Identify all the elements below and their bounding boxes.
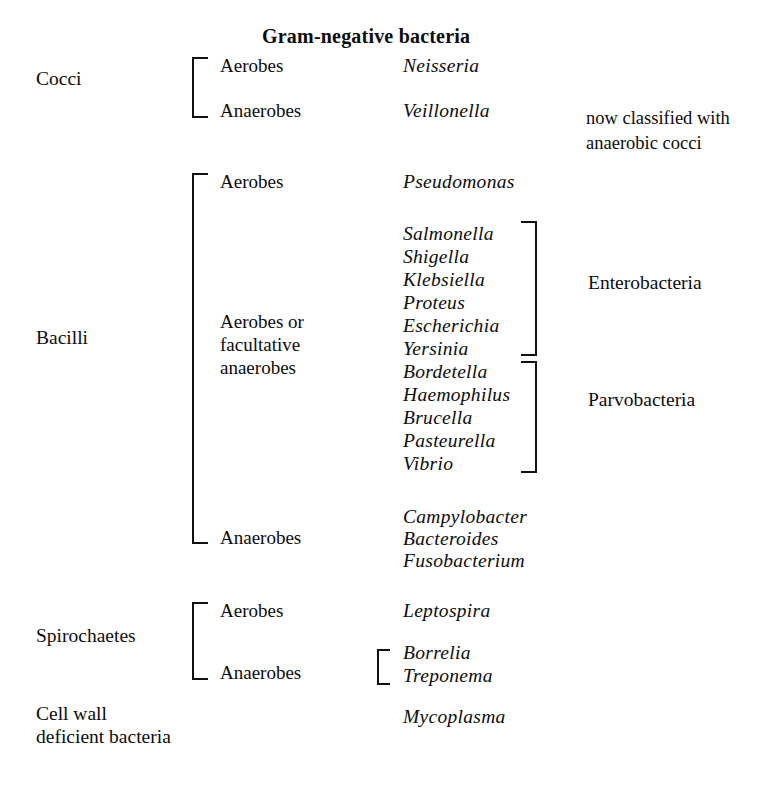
- bracket-cocci: [192, 57, 208, 118]
- genus-bacteroides: Bacteroides: [403, 528, 499, 549]
- genus-salmonella: Salmonella: [403, 223, 494, 244]
- genus-campylobacter: Campylobacter: [403, 506, 527, 527]
- genus-escherichia: Escherichia: [403, 315, 499, 336]
- category-label-cell-wall-deficient-line1: Cell wall: [36, 703, 107, 724]
- group-label-enterobacteria: Enterobacteria: [588, 272, 702, 293]
- genus-yersinia: Yersinia: [403, 338, 469, 359]
- bracket-spirochaete-anaerobes: [377, 649, 390, 685]
- category-label-cocci: Cocci: [36, 68, 81, 89]
- genus-mycoplasma: Mycoplasma: [403, 706, 506, 727]
- genus-vibrio: Vibrio: [403, 453, 453, 474]
- oxygen-label-spiro-aerobes: Aerobes: [220, 601, 283, 622]
- genus-pasteurella: Pasteurella: [403, 430, 495, 451]
- genus-pseudomonas: Pseudomonas: [403, 171, 515, 192]
- category-label-spirochaetes: Spirochaetes: [36, 625, 136, 646]
- bracket-bacilli: [192, 173, 208, 544]
- note-veillonella-line2: anaerobic cocci: [586, 131, 702, 156]
- note-veillonella-line1: now classified with: [586, 106, 730, 131]
- oxygen-label-cocci-anaerobes: Anaerobes: [220, 101, 301, 122]
- oxygen-label-bacilli-anaerobes: Anaerobes: [220, 528, 301, 549]
- bracket-enterobacteria: [521, 221, 537, 356]
- oxygen-label-bacilli-facultative-line3: anaerobes: [220, 358, 296, 379]
- group-label-parvobacteria: Parvobacteria: [588, 389, 695, 410]
- oxygen-label-spiro-anaerobes: Anaerobes: [220, 663, 301, 684]
- genus-klebsiella: Klebsiella: [403, 269, 485, 290]
- genus-borrelia: Borrelia: [403, 642, 471, 663]
- genus-fusobacterium: Fusobacterium: [403, 550, 525, 571]
- page-title: Gram-negative bacteria: [262, 26, 470, 48]
- genus-proteus: Proteus: [403, 292, 465, 313]
- bracket-spirochaetes: [192, 602, 208, 680]
- category-label-bacilli: Bacilli: [36, 327, 88, 348]
- genus-shigella: Shigella: [403, 246, 469, 267]
- oxygen-label-bacilli-facultative-line1: Aerobes or: [220, 312, 304, 333]
- oxygen-label-bacilli-facultative-line2: facultative: [220, 335, 300, 356]
- category-label-cell-wall-deficient-line2: deficient bacteria: [36, 726, 171, 747]
- oxygen-label-cocci-aerobes: Aerobes: [220, 56, 283, 77]
- genus-treponema: Treponema: [403, 665, 493, 686]
- gram-negative-bacteria-classification-diagram: Gram-negative bacteria Cocci Aerobes Nei…: [0, 0, 773, 785]
- genus-leptospira: Leptospira: [403, 600, 491, 621]
- genus-haemophilus: Haemophilus: [403, 384, 510, 405]
- genus-bordetella: Bordetella: [403, 361, 488, 382]
- genus-neisseria: Neisseria: [403, 55, 479, 76]
- oxygen-label-bacilli-aerobes: Aerobes: [220, 172, 283, 193]
- genus-veillonella: Veillonella: [403, 100, 490, 121]
- genus-brucella: Brucella: [403, 407, 473, 428]
- bracket-parvobacteria: [521, 361, 537, 473]
